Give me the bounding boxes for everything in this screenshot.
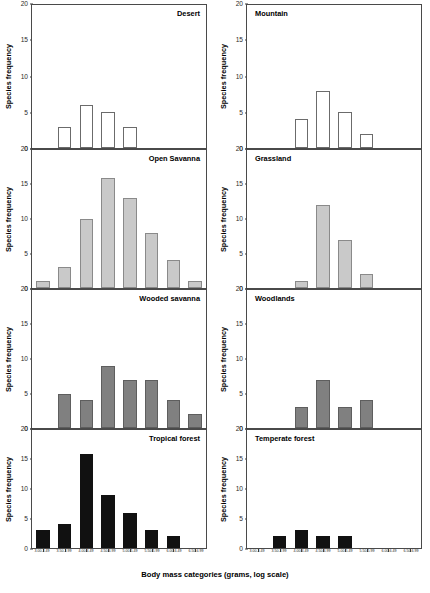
bar xyxy=(167,536,180,548)
bar-slot xyxy=(399,290,421,428)
plot-area: Grassland xyxy=(246,149,422,289)
bar-series xyxy=(247,430,421,548)
plot-area: Open Savanna xyxy=(31,149,207,289)
bar-series xyxy=(32,5,206,148)
bar xyxy=(101,112,114,148)
bar xyxy=(273,536,286,548)
bar-slot xyxy=(119,5,141,148)
x-tick-label: 4.50-4.99 xyxy=(313,549,333,554)
x-tick-label: 5.00-5.49 xyxy=(335,549,355,554)
bar xyxy=(101,366,114,428)
bar xyxy=(145,233,158,288)
x-tick-label: 4.00-4.49 xyxy=(291,549,311,554)
bar xyxy=(58,394,71,429)
bar-slot xyxy=(141,430,163,548)
bar-slot xyxy=(378,290,400,428)
y-tick-label: 20 xyxy=(21,286,28,293)
y-tick-label: 10 xyxy=(236,73,243,80)
y-tick-label: 20 xyxy=(236,1,243,8)
bar-slot xyxy=(163,290,185,428)
bar-series xyxy=(247,5,421,148)
y-tick-label: 15 xyxy=(236,456,243,463)
x-tick-labels-left-column: 3.00-3.493.50-3.994.00-4.494.50-4.995.00… xyxy=(31,549,207,563)
plot-inner: Tropical forest xyxy=(32,430,206,548)
bar-slot xyxy=(97,150,119,288)
bar xyxy=(145,530,158,548)
y-tick-label: 20 xyxy=(236,146,243,153)
plot-inner: Mountain xyxy=(247,5,421,148)
bar xyxy=(145,380,158,428)
bar-slot xyxy=(334,290,356,428)
bar xyxy=(123,127,136,148)
y-axis-title-text: Species frequency xyxy=(220,326,229,391)
bar xyxy=(360,274,373,288)
y-axis-title-text: Species frequency xyxy=(5,44,14,109)
bar xyxy=(80,105,93,148)
y-tick-label: 15 xyxy=(236,321,243,328)
x-tick-labels-right-inner: 3.00-3.493.50-3.994.00-4.494.50-4.995.00… xyxy=(246,549,422,554)
bar xyxy=(36,530,49,548)
bar-slot xyxy=(312,5,334,148)
bar xyxy=(360,400,373,428)
x-tick-label: 3.00-3.49 xyxy=(32,549,52,554)
bar-slot xyxy=(312,430,334,548)
panel-open-savanna: Species frequency05101520Open Savanna xyxy=(0,149,215,289)
bar-slot xyxy=(269,150,291,288)
bar-slot xyxy=(247,5,269,148)
bar-slot xyxy=(184,290,206,428)
y-tick-label: 15 xyxy=(21,321,28,328)
y-tick-label: 10 xyxy=(21,486,28,493)
x-tick-label: 6.00-6.49 xyxy=(164,549,184,554)
bar-series xyxy=(32,430,206,548)
bar xyxy=(316,205,329,288)
bar-slot xyxy=(334,5,356,148)
bar xyxy=(338,112,351,148)
bar-slot xyxy=(269,5,291,148)
bar-slot xyxy=(32,5,54,148)
bar-slot xyxy=(76,430,98,548)
y-axis-ticks: 05101520 xyxy=(229,289,245,429)
x-tick-label: 3.50-3.99 xyxy=(269,549,289,554)
y-tick-label: 5 xyxy=(239,109,243,116)
y-axis-title-text: Species frequency xyxy=(220,44,229,109)
bar xyxy=(123,513,136,548)
bar-slot xyxy=(141,5,163,148)
bar-slot xyxy=(97,430,119,548)
bar xyxy=(295,281,308,288)
bar-slot xyxy=(54,290,76,428)
plot-inner: Open Savanna xyxy=(32,150,206,288)
bar-slot xyxy=(32,290,54,428)
panel-grid: Species frequency05101520DesertSpecies f… xyxy=(0,4,430,549)
y-tick-label: 15 xyxy=(236,181,243,188)
bar-slot xyxy=(334,150,356,288)
bar xyxy=(188,281,201,288)
bar xyxy=(360,134,373,148)
y-tick-label: 20 xyxy=(236,286,243,293)
bar-slot xyxy=(399,5,421,148)
bar xyxy=(58,127,71,148)
plot-area: Temperate forest xyxy=(246,429,422,549)
y-tick-label: 15 xyxy=(236,37,243,44)
y-axis-title-text: Species frequency xyxy=(220,456,229,521)
bar-slot xyxy=(247,150,269,288)
bar-slot xyxy=(399,150,421,288)
plot-area: Tropical forest xyxy=(31,429,207,549)
bar xyxy=(338,536,351,548)
bar-slot xyxy=(356,5,378,148)
y-tick-label: 15 xyxy=(21,37,28,44)
bar-slot xyxy=(334,430,356,548)
y-tick-label: 5 xyxy=(239,391,243,398)
x-tick-label: 4.00-4.49 xyxy=(76,549,96,554)
bar-slot xyxy=(356,290,378,428)
bar xyxy=(123,198,136,288)
y-tick-label: 20 xyxy=(21,1,28,8)
panel-desert: Species frequency05101520Desert xyxy=(0,4,215,149)
x-tick-labels-right-column: 3.00-3.493.50-3.994.00-4.494.50-4.995.00… xyxy=(246,549,422,563)
bar-slot xyxy=(141,150,163,288)
figure-multi-panel-histograms: Species frequency05101520DesertSpecies f… xyxy=(0,0,430,593)
bar-slot xyxy=(97,5,119,148)
panel-wooded-savanna: Species frequency05101520Wooded savanna xyxy=(0,289,215,429)
x-tick-label: 4.50-4.99 xyxy=(98,549,118,554)
y-axis-title-text: Species frequency xyxy=(5,326,14,391)
bar-slot xyxy=(378,430,400,548)
